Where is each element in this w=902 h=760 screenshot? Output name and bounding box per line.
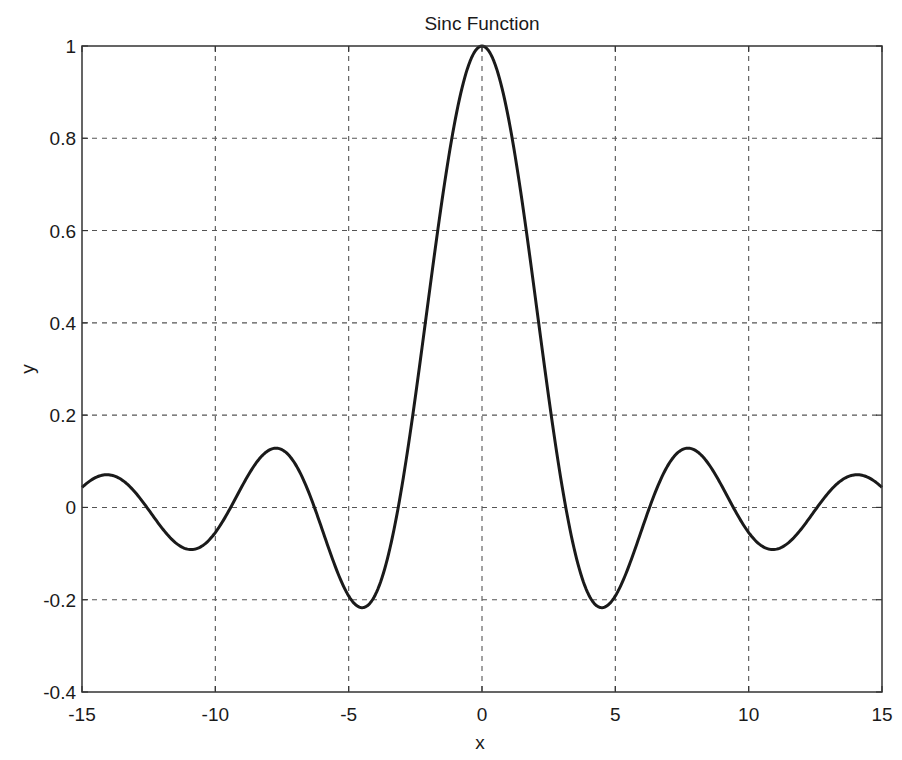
chart-canvas: Sinc Function -15-10-5051015 -0.4-0.200.… [0, 0, 902, 760]
y-tick-label: -0.2 [43, 590, 76, 611]
x-tick-label: -10 [202, 704, 229, 725]
chart-title: Sinc Function [424, 13, 539, 34]
y-tick-label: 0.6 [50, 221, 76, 242]
y-tick-label: 0.2 [50, 405, 76, 426]
x-tick-label: -5 [340, 704, 357, 725]
x-tick-label: 15 [871, 704, 892, 725]
x-tick-label: -15 [68, 704, 95, 725]
y-axis-label: y [17, 364, 38, 374]
y-tick-label: 0.4 [50, 313, 77, 334]
x-tick-label: 10 [738, 704, 759, 725]
x-axis-label: x [475, 732, 485, 753]
y-tick-label: 0.8 [50, 128, 76, 149]
grid-lines [82, 46, 882, 692]
y-tick-label: 1 [65, 36, 76, 57]
sinc-chart: Sinc Function -15-10-5051015 -0.4-0.200.… [0, 0, 902, 760]
y-tick-label: -0.4 [43, 682, 76, 703]
x-tick-label: 0 [477, 704, 488, 725]
y-axis-ticks: -0.4-0.200.20.40.60.81 [43, 36, 882, 703]
x-tick-label: 5 [610, 704, 621, 725]
y-tick-label: 0 [65, 497, 76, 518]
x-axis-ticks: -15-10-5051015 [68, 46, 892, 725]
